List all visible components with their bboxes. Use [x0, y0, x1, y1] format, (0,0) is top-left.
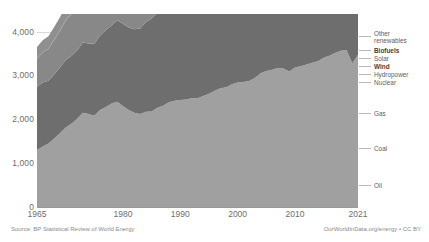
y-axis-tick-label: 2,000 — [1, 114, 34, 124]
x-axis-tick-label: 2021 — [349, 209, 368, 219]
y-axis-tick-label: 3,000 — [1, 70, 34, 80]
legend-item-hydropower[interactable]: Hydropower — [374, 71, 408, 78]
x-axis-tick-label: 1965 — [28, 209, 47, 219]
legend-leader-line — [359, 148, 371, 149]
x-axis-tick-label: 2000 — [228, 209, 247, 219]
y-axis-tick-label: 4,000 — [1, 27, 34, 37]
legend-item-solar[interactable]: Solar — [374, 55, 389, 62]
legend-item-wind[interactable]: Wind — [374, 63, 390, 70]
x-axis-tick-label: 2010 — [285, 209, 304, 219]
legend-item-gas[interactable]: Gas — [374, 110, 386, 117]
legend-leader-line — [359, 82, 371, 83]
legend-leader-line — [359, 36, 371, 37]
legend-item-nuclear[interactable]: Nuclear — [374, 79, 396, 86]
chart-root: 01,0002,0003,0004,000 196519801990200020… — [0, 0, 429, 242]
legend-leader-line — [359, 185, 371, 186]
x-axis-tick-label: 1980 — [114, 209, 133, 219]
x-axis-tick-label: 1990 — [171, 209, 190, 219]
legend-leader-line — [359, 113, 371, 114]
legend-item-oil[interactable]: Oil — [374, 182, 382, 189]
stacked-area-svg — [37, 14, 358, 207]
legend-item-biofuels[interactable]: Biofuels — [374, 47, 399, 54]
credit-note: OurWorldInData.org/energy • CC BY — [324, 226, 421, 232]
axis-baseline — [37, 207, 358, 208]
chart-footer: Source: BP Statistical Review of World E… — [0, 226, 429, 240]
plot-area — [37, 14, 358, 207]
legend-leader-line — [359, 66, 371, 67]
legend-item-other-renewables[interactable]: Other renewables — [374, 30, 414, 44]
y-axis-tick-label: 1,000 — [1, 158, 34, 168]
legend-leader-line — [359, 50, 371, 51]
y-axis-labels: 01,0002,0003,0004,000 — [0, 14, 34, 207]
clipped-title — [30, 0, 230, 4]
x-axis-labels: 196519801990200020102021 — [0, 209, 429, 223]
legend-leader-line — [359, 58, 371, 59]
legend-leader-line — [359, 74, 371, 75]
legend-item-coal[interactable]: Coal — [374, 145, 387, 152]
source-note: Source: BP Statistical Review of World E… — [11, 226, 135, 232]
chart-legend: Other renewablesBiofuelsSolarWindHydropo… — [358, 0, 429, 207]
